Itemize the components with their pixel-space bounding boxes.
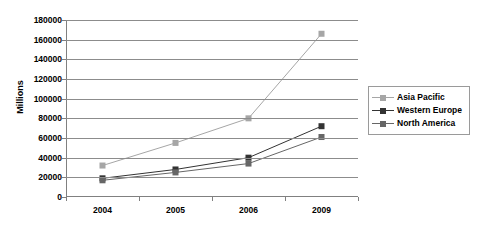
y-axis-tick-label: 140000 bbox=[6, 55, 62, 64]
legend-item-western-europe: Western Europe bbox=[372, 104, 466, 117]
y-axis-tick-mark bbox=[62, 99, 66, 100]
y-axis-tick-mark bbox=[62, 59, 66, 60]
x-axis-tick-mark bbox=[212, 197, 213, 201]
y-axis-tick-mark bbox=[62, 79, 66, 80]
y-axis-tick-mark bbox=[62, 40, 66, 41]
x-axis-tick-label: 2006 bbox=[214, 205, 284, 215]
y-axis-tick-label: 60000 bbox=[6, 134, 62, 143]
data-point-marker bbox=[173, 169, 179, 175]
gridline bbox=[66, 177, 358, 178]
x-axis-tick-mark bbox=[358, 197, 359, 201]
data-point-marker bbox=[100, 163, 106, 169]
legend-item-asia-pacific: Asia Pacific bbox=[372, 91, 466, 104]
x-axis-tick-mark bbox=[66, 197, 67, 201]
legend-marker-icon bbox=[372, 118, 394, 129]
gridline bbox=[66, 118, 358, 119]
series-line bbox=[103, 126, 322, 178]
plot-area bbox=[66, 20, 358, 197]
x-axis-tick-mark bbox=[285, 197, 286, 201]
legend-label: Asia Pacific bbox=[397, 93, 445, 102]
gridline bbox=[66, 40, 358, 41]
y-axis-tick-labels: 0200004000060000800001000001200001400001… bbox=[4, 20, 62, 197]
x-axis-tick-mark bbox=[139, 197, 140, 201]
gridline bbox=[66, 99, 358, 100]
y-axis-tick-label: 20000 bbox=[6, 173, 62, 182]
data-point-marker bbox=[173, 140, 179, 146]
data-point-marker bbox=[319, 31, 325, 37]
x-axis-tick-label: 2009 bbox=[287, 205, 357, 215]
y-axis-tick-mark bbox=[62, 20, 66, 21]
y-axis-tick-label: 80000 bbox=[6, 114, 62, 123]
gridline bbox=[66, 158, 358, 159]
x-axis-tick-label: 2005 bbox=[141, 205, 211, 215]
x-axis-tick-label: 2004 bbox=[68, 205, 138, 215]
y-axis-tick-label: 180000 bbox=[6, 16, 62, 25]
y-axis-tick-label: 40000 bbox=[6, 154, 62, 163]
series-lines bbox=[66, 20, 358, 197]
legend-item-north-america: North America bbox=[372, 117, 466, 130]
y-axis-tick-mark bbox=[62, 138, 66, 139]
chart-legend: Asia Pacific Western Europe North Americ… bbox=[368, 86, 470, 135]
y-axis-tick-label: 160000 bbox=[6, 36, 62, 45]
legend-label: North America bbox=[397, 119, 455, 128]
y-axis-tick-label: 120000 bbox=[6, 75, 62, 84]
y-axis-tick-label: 100000 bbox=[6, 95, 62, 104]
y-axis-tick-label: 0 bbox=[6, 193, 62, 202]
legend-marker-icon bbox=[372, 92, 394, 103]
line-chart: Millions 0200004000060000800001000001200… bbox=[0, 0, 484, 232]
data-point-marker bbox=[246, 161, 252, 167]
data-point-marker bbox=[319, 123, 325, 129]
gridline bbox=[66, 79, 358, 80]
y-axis-tick-mark bbox=[62, 158, 66, 159]
gridline bbox=[66, 59, 358, 60]
gridline bbox=[66, 138, 358, 139]
y-axis-tick-mark bbox=[62, 118, 66, 119]
y-axis-tick-mark bbox=[62, 177, 66, 178]
legend-label: Western Europe bbox=[397, 106, 462, 115]
gridline bbox=[66, 20, 358, 21]
legend-marker-icon bbox=[372, 105, 394, 116]
